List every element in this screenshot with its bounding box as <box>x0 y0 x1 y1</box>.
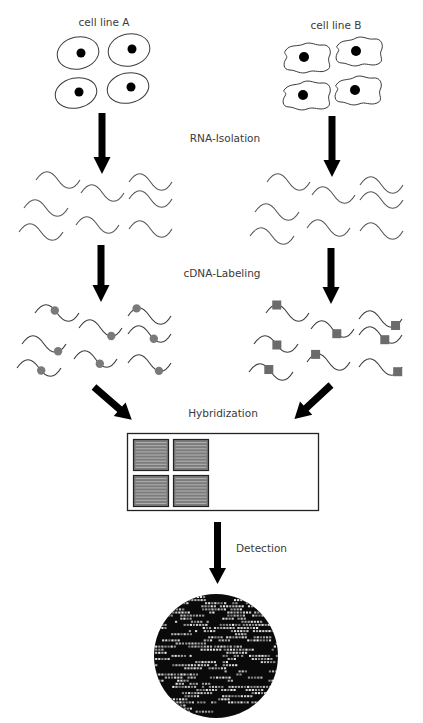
scan-spot <box>205 661 207 663</box>
scan-spot <box>191 692 193 694</box>
scan-spot <box>152 667 154 669</box>
scan-spot <box>197 599 199 601</box>
scan-spot <box>237 599 239 601</box>
scan-spot <box>180 677 182 679</box>
scan-spot <box>233 627 235 629</box>
scan-spot <box>211 605 213 607</box>
scan-spot <box>204 639 206 641</box>
rna-strand <box>129 191 172 208</box>
scan-spot <box>205 608 207 610</box>
scan-spot <box>227 649 229 651</box>
scan-spot <box>233 615 235 617</box>
scan-spot <box>236 674 238 676</box>
scan-spot <box>265 655 267 657</box>
detection-label: Detection <box>236 542 287 554</box>
scan-spot <box>165 639 167 641</box>
scan-spot <box>239 717 241 719</box>
scan-spot <box>285 689 287 691</box>
scan-spot <box>213 630 215 632</box>
scan-spot <box>155 596 157 598</box>
scan-spot <box>284 680 286 682</box>
rna-strand <box>307 220 350 237</box>
scan-spot <box>225 618 227 620</box>
scan-spot <box>176 608 178 610</box>
scan-spot <box>266 636 268 638</box>
scan-spot <box>174 674 176 676</box>
scan-spot <box>235 664 237 666</box>
scan-spot <box>268 698 270 700</box>
scan-spot <box>244 701 246 703</box>
scan-spot <box>246 689 248 691</box>
scan-spot <box>161 615 163 617</box>
rna-strand <box>129 174 172 191</box>
scan-spot <box>214 661 216 663</box>
scan-spot <box>238 633 240 635</box>
scan-spot <box>255 689 257 691</box>
scan-spot <box>196 674 198 676</box>
scan-spot <box>252 615 254 617</box>
scan-spot <box>287 602 289 604</box>
scan-spot <box>250 639 252 641</box>
scan-spot <box>178 664 180 666</box>
scan-spot <box>200 701 202 703</box>
scan-spot <box>253 708 255 710</box>
scan-spot <box>178 612 180 614</box>
scan-spot <box>235 695 237 697</box>
scan-spot <box>284 612 286 614</box>
scan-spot <box>224 698 226 700</box>
scan-spot <box>161 652 163 654</box>
scan-spot <box>269 714 271 716</box>
scan-spot <box>190 708 192 710</box>
scan-spot <box>230 646 232 648</box>
labeled-cdna-b <box>249 301 402 381</box>
scan-spot <box>194 643 196 645</box>
scan-spot <box>207 639 209 641</box>
subarray <box>174 476 209 507</box>
rna-strand <box>360 223 403 240</box>
scan-spot <box>190 615 192 617</box>
scan-spot <box>261 698 263 700</box>
scan-spot <box>185 612 187 614</box>
scan-spot <box>254 612 256 614</box>
labeled-strand-circle <box>128 326 171 343</box>
scan-spot <box>152 680 154 682</box>
scan-spot <box>168 708 170 710</box>
scan-spot <box>180 618 182 620</box>
scan-spot <box>187 708 189 710</box>
scan-spot <box>270 658 272 660</box>
labeled-strand-circle <box>17 360 61 377</box>
scan-spot <box>171 708 173 710</box>
scan-spot <box>280 608 282 610</box>
scan-spot <box>245 636 247 638</box>
rna-strand <box>19 224 63 241</box>
scan-spot <box>187 624 189 626</box>
scan-spot <box>211 636 213 638</box>
scan-spot <box>285 643 287 645</box>
scan-spot <box>190 633 192 635</box>
scan-spot <box>223 605 225 607</box>
scan-spot <box>180 615 182 617</box>
scan-spot <box>282 643 284 645</box>
scan-spot <box>176 701 178 703</box>
scan-spot <box>244 627 246 629</box>
scan-spot <box>182 643 184 645</box>
scan-spot <box>204 692 206 694</box>
scan-spot <box>224 649 226 651</box>
scan-spot <box>270 661 272 663</box>
scan-spot <box>210 646 212 648</box>
scan-spot <box>271 698 273 700</box>
scan-spot <box>272 649 274 651</box>
scan-spot <box>226 652 228 654</box>
scan-spot <box>229 624 231 626</box>
scan-spot <box>270 692 272 694</box>
scan-spot <box>158 615 160 617</box>
scan-spot <box>224 689 226 691</box>
rna-strand <box>24 200 68 217</box>
scan-spot <box>245 649 247 651</box>
labeled-strand-square <box>359 359 402 376</box>
scan-spot <box>268 615 270 617</box>
fluorescent-label-square <box>311 350 320 359</box>
cell-line-a-cells <box>52 30 153 112</box>
cell-a <box>105 30 153 70</box>
scan-spot <box>204 646 206 648</box>
